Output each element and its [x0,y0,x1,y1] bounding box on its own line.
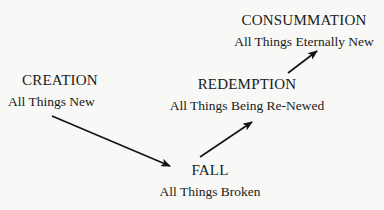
arrow-fall-to-redemption [200,122,252,157]
node-creation-subtitle: All Things New [8,92,110,112]
node-consummation: CONSUMMATION All Things Eternally New [224,10,384,52]
node-creation: CREATION All Things New [8,70,110,112]
node-consummation-subtitle: All Things Eternally New [224,32,384,52]
node-fall-subtitle: All Things Broken [140,182,280,202]
node-fall-title: FALL [140,160,280,180]
story-arc-diagram: CREATION All Things New FALL All Things … [0,0,384,210]
node-redemption: REDEMPTION All Things Being Re-Newed [165,74,329,116]
node-creation-title: CREATION [8,70,110,90]
node-redemption-title: REDEMPTION [165,74,329,94]
node-consummation-title: CONSUMMATION [224,10,384,30]
arrow-creation-to-fall [52,116,170,166]
arrow-redemption-to-consummation [288,51,317,73]
node-redemption-subtitle: All Things Being Re-Newed [165,96,329,116]
node-fall: FALL All Things Broken [140,160,280,202]
